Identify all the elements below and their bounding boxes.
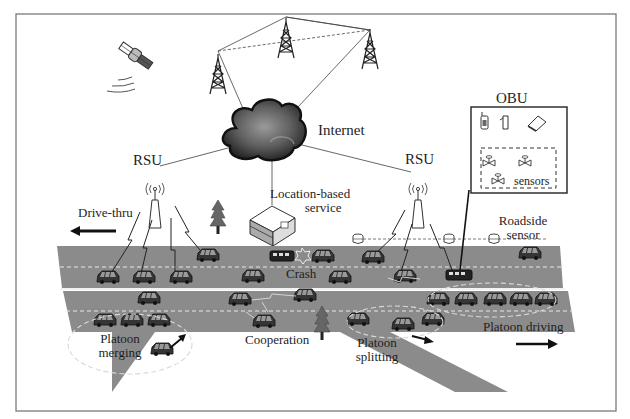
platoon-merging-line2: merging — [92, 346, 148, 360]
car — [312, 250, 334, 263]
location-service-line2: service — [270, 201, 350, 215]
car — [484, 293, 506, 306]
crash-label: Crash — [286, 267, 316, 281]
car — [294, 289, 316, 302]
roadside-sensor-label: Roadside sensor — [497, 214, 549, 242]
car — [455, 293, 477, 306]
car — [138, 292, 160, 305]
cooperation-label: Cooperation — [245, 333, 309, 347]
platoon-splitting-line2: splitting — [352, 350, 402, 364]
roadside-sensor-icon-1 — [353, 234, 363, 244]
obu-label: OBU — [496, 91, 528, 105]
car — [197, 249, 219, 262]
car — [392, 318, 414, 331]
car — [151, 343, 173, 356]
platoon-merging-line1: Platoon — [92, 332, 148, 346]
car — [94, 314, 116, 327]
car — [242, 270, 264, 283]
rsu-left-label: RSU — [133, 153, 162, 167]
rsu-right-label: RSU — [405, 152, 434, 166]
drive-thru-label: Drive-thru — [78, 206, 133, 220]
internet-label: Internet — [318, 123, 365, 137]
car — [510, 293, 532, 306]
car — [97, 271, 119, 284]
car — [535, 293, 557, 306]
crashed-bus-icon — [270, 251, 294, 261]
platoon-driving-label: Platoon driving — [483, 320, 564, 334]
car — [422, 313, 444, 326]
car — [347, 313, 369, 326]
roadside-sensor-line1: Roadside — [497, 214, 549, 228]
location-service-line1: Location-based — [270, 187, 350, 201]
car — [133, 271, 155, 284]
obu-bus-icon — [446, 270, 472, 280]
roadside-sensor-line2: sensor — [497, 228, 549, 242]
car — [329, 271, 351, 284]
platoon-splitting-line1: Platoon — [352, 336, 402, 350]
car — [121, 314, 143, 327]
platoon-splitting-label: Platoon splitting — [352, 336, 402, 364]
roadside-sensor-icon-2 — [444, 234, 454, 244]
location-service-label: Location-based service — [270, 187, 350, 215]
car — [229, 293, 251, 306]
car — [362, 251, 384, 264]
car — [170, 271, 192, 284]
sensors-label: sensors — [514, 174, 549, 188]
platoon-merging-label: Platoon merging — [92, 332, 148, 360]
car — [519, 247, 541, 260]
car — [253, 315, 275, 328]
vanet-diagram: Internet RSU RSU OBU sensors Location-ba… — [0, 0, 630, 419]
